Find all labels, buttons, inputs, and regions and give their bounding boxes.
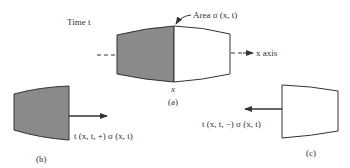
panel-c: t (x, t, −) σ (x, t) (c) [202, 85, 338, 158]
left-segment-body [14, 86, 69, 140]
right-half-body [174, 26, 230, 82]
caption-a: (a) [168, 97, 178, 107]
panel-a: Time t Area σ (x, t) x axis x (a) [67, 10, 278, 107]
right-segment-body [282, 85, 338, 138]
negative-traction-label: t (x, t, −) σ (x, t) [202, 119, 261, 129]
positive-traction-label: t (x, t, +) σ (x, t) [74, 131, 133, 141]
caption-c: (c) [306, 148, 316, 158]
left-half-body [117, 26, 174, 82]
x-position-label: x [170, 84, 175, 94]
panel-b: t (x, t, +) σ (x, t) (b) [14, 86, 133, 164]
caption-b: (b) [36, 154, 47, 164]
stress-diagram: Time t Area σ (x, t) x axis x (a) t (x, … [0, 0, 350, 168]
time-label: Time t [67, 17, 91, 27]
x-axis-label: x axis [256, 48, 278, 58]
area-label: Area σ (x, t) [193, 10, 237, 20]
area-pointer-arrow [176, 15, 191, 24]
